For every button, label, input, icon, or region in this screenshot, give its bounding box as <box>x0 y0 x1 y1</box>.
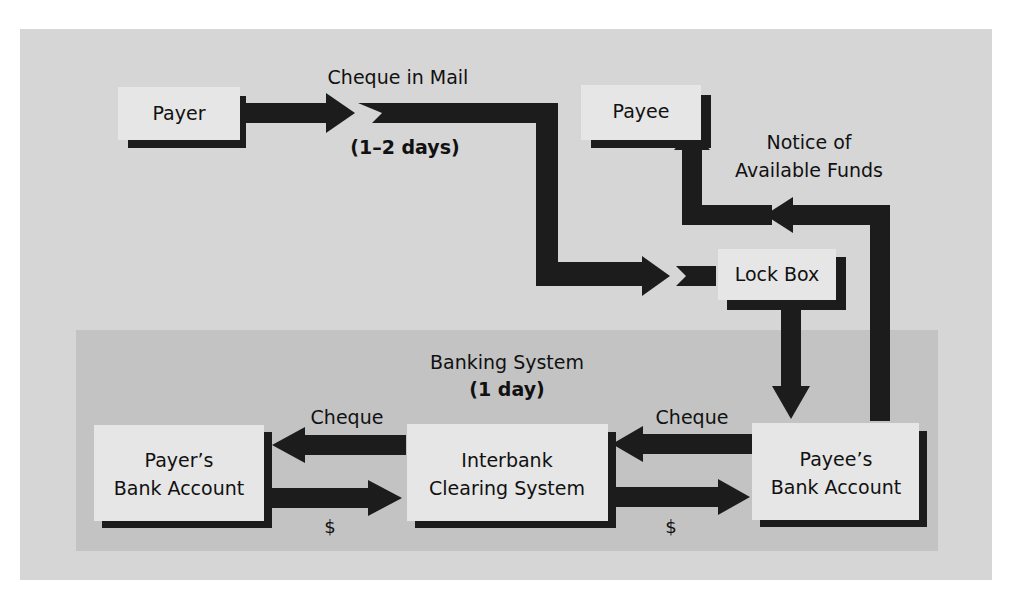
payers-bank-node: Payer’s Bank Account <box>94 425 272 528</box>
interbank-node: Interbank Clearing System <box>407 424 616 528</box>
cheque-in-mail-label: Cheque in Mail <box>328 66 469 88</box>
dollar-label-left: $ <box>324 516 335 537</box>
interbank-label-line1: Interbank <box>461 449 552 471</box>
payees-bank-label-line1: Payee’s <box>800 448 873 470</box>
payees-bank-node: Payee’s Bank Account <box>752 423 927 527</box>
payees-bank-label-line2: Bank Account <box>771 476 901 498</box>
lockbox-diagram: Payer Cheque in Mail (1–2 days) Payee No… <box>0 0 1010 596</box>
cheque-label-right: Cheque <box>656 406 729 428</box>
banking-days-label: (1 day) <box>469 378 544 400</box>
payee-label: Payee <box>613 100 670 122</box>
notice-label-line1: Notice of <box>766 131 852 153</box>
lock-box-label: Lock Box <box>735 263 820 285</box>
notice-label-line2: Available Funds <box>735 159 883 181</box>
banking-system-label: Banking System <box>430 351 584 373</box>
payer-node: Payer <box>118 87 246 148</box>
payers-bank-label-line2: Bank Account <box>114 477 244 499</box>
cheque-label-left: Cheque <box>311 406 384 428</box>
payee-node: Payee <box>581 85 711 148</box>
payer-label: Payer <box>153 102 206 124</box>
dollar-label-right: $ <box>665 516 676 537</box>
mail-days-label: (1–2 days) <box>350 136 459 158</box>
lock-box-node: Lock Box <box>718 249 846 310</box>
interbank-label-line2: Clearing System <box>429 477 585 499</box>
payers-bank-label-line1: Payer’s <box>145 449 214 471</box>
